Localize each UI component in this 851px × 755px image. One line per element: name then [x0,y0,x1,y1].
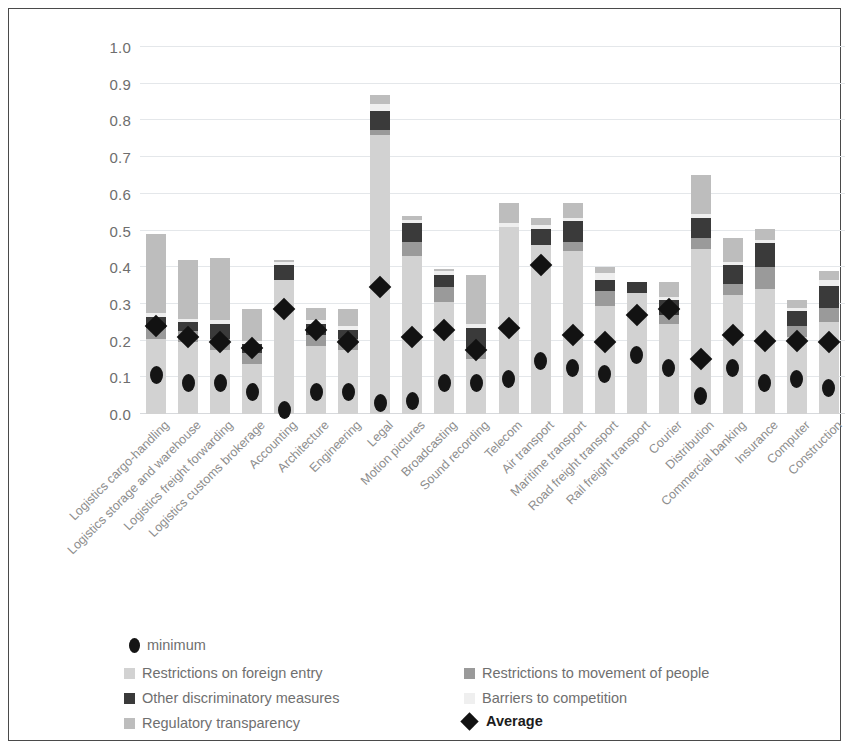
bar-segment [434,287,454,302]
y-axis-tick-label: 0.2 [91,332,131,349]
y-axis-tick-label: 0.7 [91,149,131,166]
bar-column [787,300,807,414]
minimum-marker [214,374,227,392]
bar-segment [434,269,454,271]
bar-column [563,203,583,414]
legend-ellipse-icon [129,638,140,653]
legend-diamond-icon [460,712,478,730]
legend-label: Barriers to competition [482,690,627,706]
bar-segment [434,271,454,275]
minimum-marker [470,374,483,392]
bar-segment [819,271,839,280]
bar-segment [595,273,615,280]
chart-frame: 1.00.90.80.70.60.50.40.30.20.10.0 Logist… [8,8,841,741]
legend-label: minimum [147,637,206,653]
bar-segment [723,265,743,283]
bar-segment [210,320,230,324]
bar-segment [338,350,358,414]
bar-column [370,95,390,414]
bar-segment [787,300,807,307]
minimum-marker [150,366,163,384]
gridline [140,193,845,194]
bar-segment [178,260,198,319]
legend-item[interactable]: Regulatory transparency [124,715,300,731]
legend-label: Other discriminatory measures [142,690,339,706]
y-axis-tick-label: 0.6 [91,185,131,202]
bar-segment [595,291,615,306]
legend-item[interactable]: Average [462,713,543,729]
minimum-marker [342,383,355,401]
legend-label: Restrictions to movement of people [482,665,709,681]
bar-column [274,260,294,414]
minimum-marker [758,374,771,392]
bar-segment [178,319,198,323]
minimum-marker [790,370,803,388]
bar-segment [402,223,422,241]
bar-segment [274,262,294,266]
gridline [140,230,845,231]
bar-segment [370,104,390,111]
gridline [140,119,845,120]
y-axis: 1.00.90.80.70.60.50.40.30.20.10.0 [87,47,131,414]
legend-item[interactable]: minimum [129,637,206,653]
bar-segment [434,275,454,288]
bar-segment [755,229,775,240]
legend-label: Average [486,713,543,729]
bar-segment [402,216,422,220]
bar-segment [402,220,422,224]
x-axis-labels: Logistics cargo-handlingLogistics storag… [140,418,845,598]
minimum-marker [406,392,419,410]
legend-item[interactable]: Restrictions to movement of people [464,665,709,681]
bar-segment [595,306,615,414]
legend-item[interactable]: Barriers to competition [464,690,627,706]
plot-area [140,47,845,414]
bar-segment [723,284,743,295]
bar-segment [691,175,711,214]
gridline [140,83,845,84]
y-axis-tick-label: 0.4 [91,259,131,276]
bar-segment [274,260,294,262]
legend-item[interactable]: Restrictions on foreign entry [124,665,323,681]
minimum-marker [726,359,739,377]
bar-segment [531,229,551,246]
gridline [140,46,845,47]
legend-item[interactable]: Other discriminatory measures [124,690,339,706]
chart-legend: minimumRestrictions on foreign entryRest… [119,637,819,737]
legend-square-icon [124,718,135,729]
bar-segment [210,258,230,320]
bar-segment [274,265,294,280]
bar-segment [755,240,775,244]
bar-segment [563,203,583,218]
y-axis-tick-label: 0.1 [91,369,131,386]
bar-segment [819,286,839,308]
bar-column [434,269,454,414]
bar-segment [819,280,839,286]
minimum-marker [822,379,835,397]
legend-label: Restrictions on foreign entry [142,665,323,681]
minimum-marker [278,401,291,419]
bar-segment [723,295,743,414]
minimum-marker [630,346,643,364]
minimum-marker [246,383,259,401]
bar-segment [306,346,326,414]
bar-segment [338,326,358,330]
minimum-marker [534,352,547,370]
legend-square-icon [124,668,135,679]
bar-segment [627,282,647,293]
legend-square-icon [124,693,135,704]
minimum-marker [566,359,579,377]
bar-column [531,218,551,414]
minimum-marker [182,374,195,392]
y-axis-tick-label: 0.8 [91,112,131,129]
bar-segment [723,238,743,262]
minimum-marker [438,374,451,392]
legend-square-icon [464,668,475,679]
chart-page: 1.00.90.80.70.60.50.40.30.20.10.0 Logist… [0,0,851,755]
bar-segment [402,242,422,257]
minimum-marker [502,370,515,388]
bar-segment [659,282,679,297]
bar-segment [691,238,711,249]
bar-segment [370,130,390,136]
bar-segment [531,225,551,229]
bar-segment [466,275,486,325]
